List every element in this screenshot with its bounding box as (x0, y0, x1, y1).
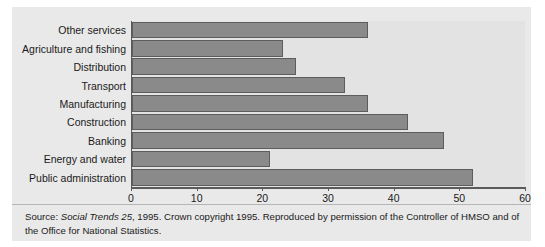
x-axis-tick-label: 0 (128, 192, 134, 204)
x-axis: 0102030405060 (131, 187, 525, 189)
bar (132, 169, 473, 186)
x-axis-tick (328, 187, 329, 191)
bar (132, 114, 408, 131)
x-axis-tick (197, 187, 198, 191)
x-axis-tick-label: 20 (256, 192, 268, 204)
plot-area: Other servicesAgriculture and fishingDis… (131, 21, 525, 187)
bar (132, 95, 368, 112)
category-label: Manufacturing (59, 99, 126, 110)
x-axis-tick (262, 187, 263, 191)
source-prefix: Source: (25, 211, 61, 222)
category-label: Distribution (73, 62, 126, 73)
x-axis-tick (459, 187, 460, 191)
category-label: Public administration (29, 172, 126, 183)
x-axis-tick-label: 60 (519, 192, 531, 204)
bar-row: Agriculture and fishing (132, 39, 525, 57)
bar-row: Energy and water (132, 150, 525, 168)
x-axis-tick-label: 50 (453, 192, 465, 204)
x-axis-tick-label: 30 (322, 192, 334, 204)
category-label: Agriculture and fishing (22, 43, 126, 54)
x-axis-tick (525, 187, 526, 191)
figure: Other servicesAgriculture and fishingDis… (0, 0, 545, 247)
bar (132, 151, 270, 168)
bar (132, 58, 296, 75)
x-axis-tick-label: 40 (388, 192, 400, 204)
category-label: Energy and water (44, 154, 126, 165)
bar-row: Public administration (132, 169, 525, 187)
chart-panel: Other servicesAgriculture and fishingDis… (12, 7, 531, 241)
source-note: Source: Social Trends 25, 1995. Crown co… (25, 210, 520, 237)
category-label: Banking (88, 136, 126, 147)
bar-row: Distribution (132, 58, 525, 76)
bar-row: Construction (132, 113, 525, 131)
bar (132, 77, 345, 94)
category-label: Construction (67, 117, 126, 128)
note-divider (12, 204, 531, 205)
x-axis-tick (394, 187, 395, 191)
category-label: Other services (58, 25, 126, 36)
bar-row: Transport (132, 76, 525, 94)
bar-row: Banking (132, 132, 525, 150)
x-axis-tick (131, 187, 132, 191)
bar (132, 132, 444, 149)
bar (132, 22, 368, 39)
bar-row: Manufacturing (132, 95, 525, 113)
bar (132, 40, 283, 57)
bar-row: Other services (132, 21, 525, 39)
source-publication: Social Trends 25 (61, 211, 132, 222)
x-axis-tick-label: 10 (191, 192, 203, 204)
chart-area: Other servicesAgriculture and fishingDis… (12, 7, 531, 195)
category-label: Transport (81, 80, 126, 91)
